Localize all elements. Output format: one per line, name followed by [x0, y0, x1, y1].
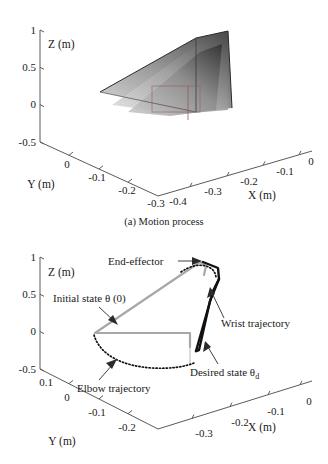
annotation-initial-state-label: Initial state θ (0): [53, 292, 126, 305]
z-tick-b-1: 1: [31, 251, 37, 263]
y-tick-b-1: 0.1: [39, 376, 53, 388]
x-tick-a-2: -0.3: [204, 185, 222, 197]
arm-initial-state: [95, 262, 206, 347]
annotation-elbow-trajectory-label: Elbow trajectory: [77, 382, 151, 394]
z-tick-b-3: 0: [31, 325, 37, 337]
caption-panel-a: (a) Motion process: [0, 216, 328, 227]
x-tick-b-2: -0.2: [231, 416, 248, 428]
x-tick-a-4: -0.1: [276, 165, 293, 177]
y-tick-b-3: -0.1: [88, 406, 105, 418]
swept-mesh-surface: [100, 31, 232, 116]
x-axis-label-b: X (m): [248, 421, 276, 434]
y-axis-label-a: Y (m): [27, 178, 55, 191]
annotation-desired-state-label: Desired state θ: [190, 366, 255, 378]
z-tick-a-2: 0.5: [22, 61, 36, 73]
z-tick-b-4: -0.5: [19, 363, 37, 375]
annotation-wrist-trajectory-label: Wrist trajectory: [221, 317, 290, 329]
annotation-elbow-trajectory: Elbow trajectory: [77, 359, 151, 394]
x-tick-a-3: -0.2: [240, 175, 257, 187]
x-tick-b-1: -0.3: [195, 427, 213, 439]
x-tick-a-5: 0: [308, 155, 314, 167]
x-tick-a-1: -0.4: [169, 195, 187, 207]
z-axis-label-b: Z (m): [48, 266, 75, 279]
z-tick-a-4: -0.5: [19, 136, 37, 148]
panel-trajectories: 1 0.5 0 -0.5 Z (m) 0.1 0 -0.1 -0.2 Y (m)…: [0, 235, 328, 464]
x-tick-b-4: 0: [306, 395, 312, 407]
axis-z-a: 1 0.5 0 -0.5 Z (m): [19, 24, 75, 148]
panel-motion-process: 1 0.5 0 -0.5 Z (m) 0 -0.1 -0.2 -0.3 Y (m…: [0, 0, 328, 232]
y-tick-a-2: -0.1: [88, 171, 105, 183]
axis-y-a: 0 -0.1 -0.2 -0.3 Y (m): [27, 142, 165, 209]
z-axis-label-a: Z (m): [48, 38, 75, 51]
annotation-end-effector: End-effector: [108, 255, 202, 267]
plot-a-svg: 1 0.5 0 -0.5 Z (m) 0 -0.1 -0.2 -0.3 Y (m…: [0, 0, 328, 232]
axis-x-b: -0.3 -0.2 -0.1 0 X (m): [158, 381, 312, 439]
x-axis-label-a: X (m): [248, 189, 276, 202]
y-tick-b-4: -0.2: [118, 421, 135, 433]
y-tick-b-2: 0: [64, 391, 70, 403]
svg-text:Desired state θd: Desired state θd: [190, 366, 259, 381]
y-axis-label-b: Y (m): [48, 435, 76, 448]
y-tick-a-4: -0.3: [147, 197, 165, 209]
z-tick-a-3: 0: [31, 98, 37, 110]
y-tick-a-3: -0.2: [118, 184, 135, 196]
annotation-end-effector-label: End-effector: [108, 255, 164, 267]
axis-x-a: -0.4 -0.3 -0.2 -0.1 0 X (m): [158, 151, 314, 207]
z-tick-b-2: 0.5: [22, 288, 36, 300]
x-tick-b-3: -0.1: [267, 405, 284, 417]
plot-b-svg: 1 0.5 0 -0.5 Z (m) 0.1 0 -0.1 -0.2 Y (m)…: [0, 235, 328, 464]
y-tick-a-1: 0: [64, 158, 70, 170]
annotation-wrist-trajectory: Wrist trajectory: [207, 287, 290, 329]
axis-z-b: 1 0.5 0 -0.5 Z (m): [19, 251, 75, 375]
z-tick-a-1: 1: [31, 24, 37, 36]
axis-y-b: 0.1 0 -0.1 -0.2 Y (m): [39, 369, 158, 448]
annotation-desired-state-subscript: d: [255, 372, 259, 381]
annotation-initial-state: Initial state θ (0): [53, 292, 126, 325]
